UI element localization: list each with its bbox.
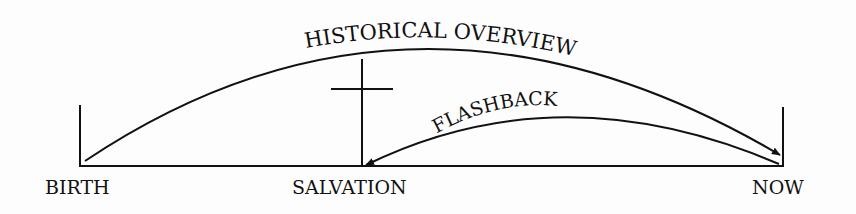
now-label: NOW xyxy=(752,176,804,198)
flashback-arrow xyxy=(366,117,779,165)
birth-label: BIRTH xyxy=(45,176,110,198)
timeline-diagram: HISTORICAL OVERVIEW FLASHBACK BIRTH SALV… xyxy=(0,0,856,214)
cross-icon xyxy=(331,59,393,166)
historical-overview-arrow xyxy=(85,49,780,161)
flashback-label: FLASHBACK xyxy=(428,87,559,137)
diagram-canvas: HISTORICAL OVERVIEW FLASHBACK BIRTH SALV… xyxy=(0,0,856,214)
salvation-label: SALVATION xyxy=(292,176,407,198)
